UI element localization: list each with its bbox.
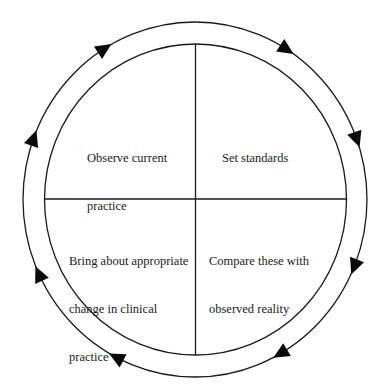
arrowhead-icon bbox=[269, 343, 290, 364]
quadrant-set-standards: Set standards bbox=[222, 118, 288, 182]
arrowhead-icon bbox=[94, 38, 116, 59]
quadrant-text-line: Observe current bbox=[87, 150, 167, 166]
quadrant-text-line: practice bbox=[87, 198, 167, 214]
arrowhead-icon bbox=[347, 130, 366, 150]
quadrant-text-line: Compare these with bbox=[209, 253, 309, 269]
arrowhead-icon bbox=[29, 263, 49, 284]
quadrant-observe-current-practice: Observe current practice bbox=[87, 118, 167, 230]
quadrant-text-line: observed reality bbox=[209, 301, 309, 317]
quadrant-text-line: change in clinical bbox=[69, 301, 188, 317]
quadrant-bring-about-change: Bring about appropriate change in clinic… bbox=[69, 221, 188, 381]
quadrant-compare-with-reality: Compare these with observed reality bbox=[209, 221, 309, 333]
quadrant-text-line: Bring about appropriate bbox=[69, 253, 188, 269]
arrowhead-icon bbox=[24, 128, 43, 148]
audit-cycle-diagram bbox=[0, 0, 383, 392]
quadrant-text-line: practice bbox=[69, 349, 188, 365]
quadrant-text-line: Set standards bbox=[222, 150, 288, 166]
arrowhead-icon bbox=[276, 39, 298, 60]
arrowhead-icon bbox=[344, 257, 364, 277]
